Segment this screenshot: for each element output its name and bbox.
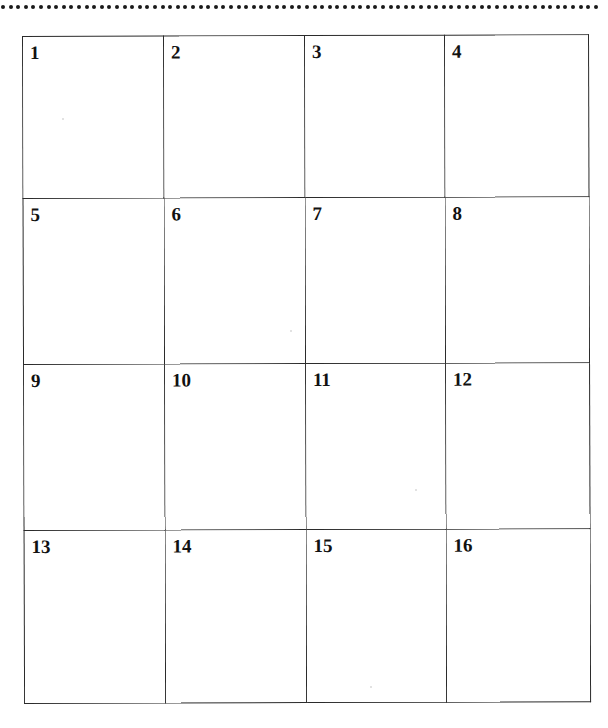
cell-number-label: 5 xyxy=(24,199,164,224)
grid-cell-2[interactable]: 2 xyxy=(164,36,306,198)
rule-dot xyxy=(556,5,560,9)
grid-cell-6[interactable]: 6 xyxy=(164,198,306,364)
rule-dot xyxy=(31,5,35,9)
rule-dot xyxy=(47,5,51,9)
cell-number-label: 6 xyxy=(165,198,305,223)
numbered-grid: 1 2 3 4 5 6 xyxy=(22,34,591,704)
rule-dot xyxy=(343,5,347,9)
rule-dot xyxy=(396,5,400,9)
rule-dot xyxy=(465,5,469,9)
rule-dot xyxy=(130,5,134,9)
rule-dot xyxy=(411,5,415,9)
rule-dot xyxy=(366,5,370,9)
grid-cell-15[interactable]: 15 xyxy=(306,529,447,702)
rule-dot xyxy=(427,5,431,9)
grid-cell-8[interactable]: 8 xyxy=(445,197,590,363)
rule-dot xyxy=(320,5,324,9)
rule-dot xyxy=(168,5,172,9)
rule-dot xyxy=(351,5,355,9)
rule-dot xyxy=(449,5,453,9)
rule-dot xyxy=(191,5,195,9)
grid-cell-14[interactable]: 14 xyxy=(165,530,307,703)
cell-number-label: 3 xyxy=(305,36,444,61)
cell-number-label: 1 xyxy=(23,37,163,62)
rule-dot xyxy=(480,5,484,9)
rule-dot xyxy=(586,5,590,9)
rule-dot xyxy=(183,5,187,9)
grid-cell-12[interactable]: 12 xyxy=(446,363,591,529)
rule-dot xyxy=(259,5,263,9)
grid-cell-1[interactable]: 1 xyxy=(23,36,165,198)
cell-number-label: 14 xyxy=(166,530,306,555)
rule-dot xyxy=(24,5,28,9)
rule-dot xyxy=(100,5,104,9)
grid-cell-16[interactable]: 16 xyxy=(446,529,591,702)
rule-dot xyxy=(518,5,522,9)
rule-dot xyxy=(85,5,89,9)
rule-dot xyxy=(290,5,294,9)
rule-dot xyxy=(594,5,598,9)
rule-dot xyxy=(237,5,241,9)
rule-dot xyxy=(305,5,309,9)
rule-dot xyxy=(571,5,575,9)
grid-cell-7[interactable]: 7 xyxy=(305,197,446,363)
cell-number-label: 9 xyxy=(24,365,164,390)
rule-dot xyxy=(404,5,408,9)
rule-dot xyxy=(419,5,423,9)
rule-dot xyxy=(358,5,362,9)
cell-number-label: 7 xyxy=(306,198,445,223)
cell-number-label: 4 xyxy=(445,35,588,60)
grid-cell-10[interactable]: 10 xyxy=(165,364,307,530)
grid-cell-9[interactable]: 9 xyxy=(24,364,166,530)
rule-dot xyxy=(214,5,218,9)
rule-dot xyxy=(335,5,339,9)
top-dotted-rule xyxy=(0,2,608,12)
rule-dot xyxy=(145,5,149,9)
rule-dot xyxy=(62,5,66,9)
rule-dot xyxy=(275,5,279,9)
cell-number-label: 12 xyxy=(446,363,589,388)
grid-container: 1 2 3 4 5 6 xyxy=(22,34,586,703)
grid-cell-4[interactable]: 4 xyxy=(444,35,589,197)
cell-number-label: 11 xyxy=(306,364,445,389)
grid-cell-5[interactable]: 5 xyxy=(23,198,165,364)
rule-dot xyxy=(457,5,461,9)
rule-dot xyxy=(297,5,301,9)
rule-dot xyxy=(54,5,58,9)
grid-row: 5 6 7 8 xyxy=(23,197,590,365)
grid-row: 9 10 11 12 xyxy=(24,363,591,531)
rule-dot xyxy=(472,5,476,9)
cell-number-label: 15 xyxy=(307,530,446,555)
worksheet-page: 1 2 3 4 5 6 xyxy=(0,0,608,728)
rule-dot xyxy=(16,5,20,9)
rule-dot xyxy=(510,5,514,9)
rule-dot xyxy=(495,5,499,9)
rule-dot xyxy=(282,5,286,9)
rule-dot xyxy=(115,5,119,9)
rule-dot xyxy=(1,5,5,9)
rule-dot xyxy=(328,5,332,9)
rule-dot xyxy=(579,5,583,9)
rule-dot xyxy=(92,5,96,9)
grid-cell-13[interactable]: 13 xyxy=(24,530,166,703)
cell-number-label: 2 xyxy=(164,36,304,61)
rule-dot xyxy=(434,5,438,9)
rule-dot xyxy=(229,5,233,9)
rule-dot xyxy=(199,5,203,9)
grid-cell-3[interactable]: 3 xyxy=(305,35,446,197)
rule-dot xyxy=(533,5,537,9)
rule-dot xyxy=(313,5,317,9)
rule-dot xyxy=(77,5,81,9)
rule-dot xyxy=(563,5,567,9)
rule-dot xyxy=(541,5,545,9)
rule-dot xyxy=(221,5,225,9)
cell-number-label: 10 xyxy=(165,364,305,389)
grid-cell-11[interactable]: 11 xyxy=(306,363,447,529)
cell-number-label: 8 xyxy=(446,197,589,222)
rule-dot xyxy=(487,5,491,9)
rule-dot xyxy=(548,5,552,9)
rule-dot xyxy=(153,5,157,9)
rule-dot xyxy=(176,5,180,9)
rule-dot xyxy=(39,5,43,9)
rule-dot xyxy=(389,5,393,9)
